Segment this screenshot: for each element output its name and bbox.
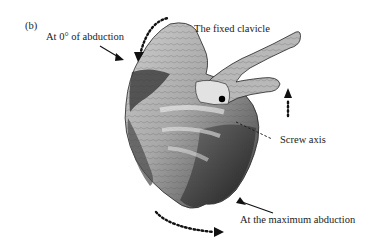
arrowhead-bottom	[214, 227, 224, 237]
label-max-abduction: At the maximum abduction	[240, 215, 355, 226]
arrowhead-right	[284, 88, 292, 98]
screw-axis-point	[219, 96, 225, 102]
label-zero-abduction: At 0° of abduction	[46, 32, 124, 43]
label-fixed-clavicle: The fixed clavicle	[194, 24, 270, 35]
rotation-arc-bottom	[156, 212, 214, 232]
clavicle-shape	[196, 32, 301, 105]
label-screw-axis: Screw axis	[280, 135, 326, 146]
scapula-shape	[125, 23, 259, 208]
figure-panel: (b) At 0° of abduction The fixed clavicl…	[0, 0, 379, 248]
panel-label: (b)	[25, 21, 37, 32]
